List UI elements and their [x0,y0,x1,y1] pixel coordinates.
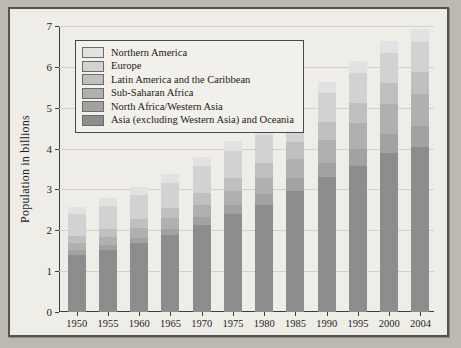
bar-segment [161,208,179,218]
legend-swatch [82,61,104,72]
bar-segment [286,191,304,312]
legend-swatch [82,88,104,99]
bar-column[interactable] [68,207,86,312]
bar-segment [161,183,179,208]
legend-item-label: Sub-Saharan Africa [111,88,194,99]
bar-segment [349,61,367,73]
legend-item[interactable]: Europe [82,60,294,74]
x-axis-tick-label: 1955 [97,318,118,329]
bar-segment [99,206,117,229]
legend-item[interactable]: North Africa/Western Asia [82,100,294,114]
bar-segment [318,140,336,162]
bar-segment [411,126,429,146]
bar-segment [193,193,211,205]
legend-item[interactable]: Asia (excluding Western Asia) and Oceani… [82,114,294,128]
bar-segment [224,178,242,191]
chart-legend: Northern AmericaEuropeLatin America and … [75,40,304,133]
bar-column[interactable] [255,125,273,312]
bar-segment [68,236,86,243]
x-axis-tick-label: 1950 [66,318,87,329]
legend-item[interactable]: Latin America and the Caribbean [82,73,294,87]
bar-segment [349,166,367,312]
bar-segment [68,214,86,236]
bar-segment [380,104,398,134]
bar-segment [193,217,211,225]
bar-column[interactable] [224,141,242,312]
legend-swatch [82,101,104,112]
bar-segment [411,72,429,94]
legend-item[interactable]: Sub-Saharan Africa [82,87,294,101]
y-axis-tick-label: 1 [47,265,53,277]
legend-swatch [82,115,104,126]
y-axis-tick-mark [55,312,59,313]
x-axis-tick-label: 1980 [254,318,275,329]
bar-segment [130,187,148,195]
bar-segment [255,135,273,163]
bar-segment [68,207,86,214]
x-axis-tick-mark [202,312,203,316]
y-axis-tick-label: 0 [47,306,53,318]
bar-segment [130,243,148,312]
bar-segment [255,194,273,205]
legend-swatch [82,74,104,85]
y-axis-tick-label: 3 [47,183,53,195]
x-axis-tick-mark [420,312,421,316]
bar-column[interactable] [130,187,148,312]
y-axis-tick-label: 2 [47,224,53,236]
x-axis-tick-mark [358,312,359,316]
bar-segment [349,123,367,149]
legend-swatch [82,47,104,58]
x-axis-tick-label: 2000 [379,318,400,329]
legend-item-label: Northern America [111,48,187,59]
bar-segment [380,83,398,104]
bar-column[interactable] [411,29,429,313]
bar-segment [68,243,86,250]
y-axis-tick-label: 7 [47,20,53,32]
bar-column[interactable] [380,41,398,312]
bar-segment [286,142,304,159]
x-axis-tick-label: 1985 [285,318,306,329]
bar-segment [286,159,304,178]
y-axis-tick-label: 5 [47,102,53,114]
bar-segment [130,195,148,220]
bar-segment [318,93,336,122]
bar-segment [380,53,398,83]
bar-segment [193,205,211,217]
bar-segment [130,219,148,228]
bar-segment [318,177,336,312]
x-axis-tick-mark [108,312,109,316]
bar-column[interactable] [99,198,117,312]
chart-frame: Population in billions 01234567 19501955… [8,7,449,337]
bar-segment [161,235,179,312]
legend-item-label: Asia (excluding Western Asia) and Oceani… [111,115,294,126]
x-axis-tick-mark [170,312,171,316]
bar-segment [286,178,304,190]
x-axis-tick-label: 1965 [160,318,181,329]
bar-column[interactable] [161,174,179,312]
bar-segment [380,153,398,312]
bar-column[interactable] [349,61,367,312]
bar-segment [380,134,398,153]
y-axis-tick-label: 6 [47,61,53,73]
bar-segment [193,225,211,312]
bar-segment [380,41,398,54]
legend-item[interactable]: Northern America [82,46,294,60]
bar-segment [193,157,211,166]
bar-segment [411,42,429,72]
bar-segment [68,255,86,312]
x-axis-tick-label: 2004 [410,318,431,329]
bar-segment [161,174,179,183]
bar-column[interactable] [193,157,211,312]
x-axis-tick-label: 1960 [129,318,150,329]
bar-segment [224,191,242,205]
x-axis-tick-mark [264,312,265,316]
legend-item-label: Latin America and the Caribbean [111,75,250,86]
x-axis-tick-mark [295,312,296,316]
x-axis-tick-label: 1970 [191,318,212,329]
bar-column[interactable] [318,82,336,312]
bar-segment [411,94,429,126]
bar-segment [99,198,117,205]
x-axis-tick-mark [139,312,140,316]
bar-segment [99,250,117,312]
bar-column[interactable] [286,103,304,312]
